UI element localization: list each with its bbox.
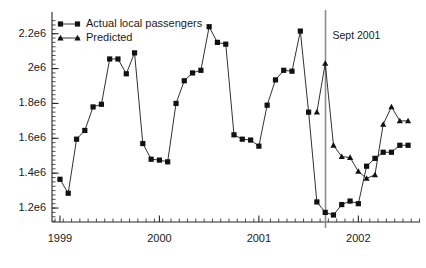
- data-point-marker: [331, 212, 336, 217]
- data-point-marker: [314, 199, 319, 204]
- sept-2001-annotation-label: Sept 2001: [333, 29, 381, 41]
- data-point-marker: [381, 150, 386, 155]
- data-point-marker: [240, 137, 245, 142]
- data-point-marker: [330, 142, 336, 148]
- data-point-marker: [74, 137, 79, 142]
- legend-marker-icon: [58, 21, 63, 26]
- y-axis-tick-label: 2.2e6: [18, 27, 46, 39]
- data-point-marker: [372, 172, 378, 178]
- data-point-marker: [231, 132, 236, 137]
- data-point-marker: [306, 110, 311, 115]
- data-point-marker: [322, 60, 328, 66]
- x-axis-tick-label: 2000: [147, 232, 171, 244]
- data-point-marker: [323, 210, 328, 215]
- y-axis-tick-label: 1.6e6: [18, 131, 46, 143]
- data-point-marker: [90, 104, 95, 109]
- data-point-marker: [314, 109, 320, 115]
- series-predicted: [314, 60, 411, 181]
- data-point-marker: [182, 78, 187, 83]
- series-polyline: [60, 27, 408, 215]
- x-axis-tick-label: 2001: [247, 232, 271, 244]
- y-axis-tick-label: 1.8e6: [18, 96, 46, 108]
- data-point-marker: [364, 164, 369, 169]
- data-point-marker: [149, 157, 154, 162]
- x-axis-tick-label: 2002: [346, 232, 370, 244]
- legend-label: Predicted: [86, 31, 132, 43]
- data-point-marker: [223, 42, 228, 47]
- data-point-marker: [132, 50, 137, 55]
- data-point-marker: [57, 177, 62, 182]
- x-axis: 1999200020012002: [48, 216, 420, 245]
- data-point-marker: [273, 77, 278, 82]
- x-axis-tick-label: 1999: [48, 232, 72, 244]
- data-point-marker: [198, 68, 203, 73]
- series-polyline: [317, 63, 408, 178]
- y-axis-tick-label: 1.4e6: [18, 166, 46, 178]
- legend-entry: Predicted: [57, 31, 132, 43]
- data-point-marker: [207, 24, 212, 29]
- data-point-marker: [256, 144, 261, 149]
- data-point-marker: [356, 201, 361, 206]
- data-point-marker: [355, 168, 361, 174]
- data-point-marker: [157, 158, 162, 163]
- y-axis: 1.2e61.4e61.6e61.8e62e62.2e6: [18, 12, 58, 222]
- data-point-marker: [248, 137, 253, 142]
- data-point-marker: [115, 56, 120, 61]
- data-point-marker: [281, 68, 286, 73]
- data-point-marker: [388, 104, 394, 110]
- data-point-marker: [165, 159, 170, 164]
- chart-container: 1.2e61.4e61.6e61.8e62e62.2e6 19992000200…: [0, 0, 426, 268]
- passenger-line-chart: 1.2e61.4e61.6e61.8e62e62.2e6 19992000200…: [0, 0, 426, 268]
- data-point-marker: [140, 141, 145, 146]
- data-point-marker: [405, 143, 410, 148]
- data-point-marker: [389, 150, 394, 155]
- data-point-marker: [82, 128, 87, 133]
- data-point-marker: [66, 191, 71, 196]
- data-point-marker: [339, 202, 344, 207]
- data-point-marker: [173, 101, 178, 106]
- data-point-marker: [124, 71, 129, 76]
- data-point-marker: [265, 103, 270, 108]
- series-actual: [57, 24, 410, 218]
- data-point-marker: [289, 69, 294, 74]
- legend-label: Actual local passengers: [86, 17, 203, 29]
- legend-marker-icon: [75, 21, 80, 26]
- data-point-marker: [298, 28, 303, 33]
- data-point-marker: [380, 121, 386, 127]
- event-marker-group: Sept 2001: [326, 10, 381, 228]
- data-point-marker: [347, 198, 352, 203]
- data-point-marker: [99, 102, 104, 107]
- data-point-marker: [107, 56, 112, 61]
- legend-entry: Actual local passengers: [58, 17, 203, 29]
- data-point-marker: [372, 156, 377, 161]
- data-point-marker: [215, 40, 220, 45]
- chart-legend: Actual local passengersPredicted: [57, 17, 202, 43]
- y-axis-tick-label: 2e6: [28, 61, 46, 73]
- data-point-marker: [190, 70, 195, 75]
- y-axis-tick-label: 1.2e6: [18, 201, 46, 213]
- data-point-marker: [397, 143, 402, 148]
- data-series-group: [57, 24, 411, 218]
